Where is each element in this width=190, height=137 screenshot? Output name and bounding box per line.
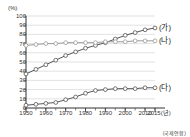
x-tick-1970: 1970 [59, 110, 72, 117]
x-tick-1960: 1960 [39, 110, 52, 117]
data-point-2-1965 [54, 101, 58, 105]
data-point-2-1955 [34, 102, 38, 106]
data-point-2-1995 [113, 87, 117, 91]
x-tick-2015: 2015(년) [147, 110, 170, 117]
data-point-0-1975 [74, 50, 78, 54]
data-point-1-1960 [44, 42, 48, 46]
data-point-2-2010 [143, 86, 147, 90]
series-label-2: (다) [159, 84, 171, 92]
data-point-2-1990 [103, 88, 107, 92]
x-tick-1990: 1990 [99, 110, 112, 117]
data-point-1-1950 [24, 44, 28, 48]
data-point-1-1995 [113, 40, 117, 44]
data-point-0-1950 [24, 72, 28, 76]
data-point-1-1990 [103, 40, 107, 44]
data-point-2-1950 [24, 103, 28, 107]
series-label-0: (가) [159, 24, 171, 32]
data-point-1-1955 [34, 43, 38, 47]
data-point-0-1965 [54, 58, 58, 62]
data-point-2-1975 [74, 95, 78, 99]
data-point-1-2005 [133, 39, 137, 43]
data-point-2-2000 [123, 87, 127, 91]
data-point-2-2005 [133, 87, 137, 91]
x-tick-1980: 1980 [79, 110, 92, 117]
data-point-1-1985 [94, 41, 98, 45]
data-point-0-2010 [143, 28, 147, 32]
data-point-1-1980 [84, 41, 88, 45]
data-point-1-2010 [143, 39, 147, 43]
data-point-0-1960 [44, 63, 48, 67]
data-point-0-2000 [123, 33, 127, 37]
data-point-2-1970 [64, 98, 68, 102]
data-point-1-1965 [54, 42, 58, 46]
data-point-2-1960 [44, 102, 48, 106]
source-note: (국제연합) [163, 130, 186, 136]
data-point-2-1980 [84, 91, 88, 95]
data-point-1-2015 [153, 39, 157, 43]
data-point-0-1955 [34, 67, 38, 71]
x-tick-1950: 1950 [19, 110, 32, 117]
x-axis-tick-labels: 19501960197019801990200020102015(년) [0, 110, 190, 122]
data-point-2-1985 [94, 89, 98, 93]
data-point-1-1970 [64, 41, 68, 45]
data-point-1-1975 [74, 41, 78, 45]
data-point-1-2000 [123, 40, 127, 44]
data-point-0-2005 [133, 31, 137, 35]
data-point-0-1970 [64, 54, 68, 58]
x-tick-2000: 2000 [119, 110, 132, 117]
series-label-1: (나) [159, 37, 171, 45]
data-point-0-1980 [84, 46, 88, 50]
data-point-0-2015 [153, 26, 157, 30]
line-chart: (%) 1009080706050403020100 1950196019701… [0, 0, 190, 137]
data-point-2-2015 [153, 86, 157, 90]
